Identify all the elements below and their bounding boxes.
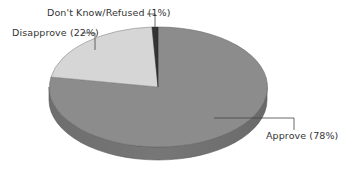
label-disapprove: Disapprove (22%) xyxy=(12,27,99,38)
label-dontknow: Don't Know/Refused (1%) xyxy=(47,7,171,18)
label-approve: Approve (78%) xyxy=(266,130,338,141)
